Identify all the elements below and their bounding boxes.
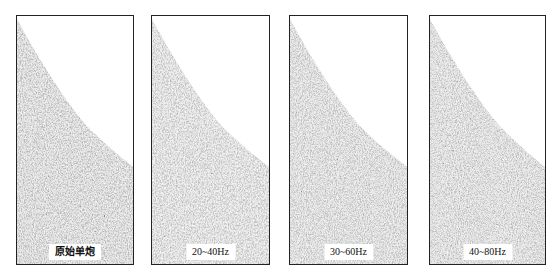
panel-label: 40~80Hz bbox=[463, 244, 512, 260]
panel-label: 20~40Hz bbox=[186, 244, 235, 260]
seismic-gather-image bbox=[152, 16, 269, 264]
panel-label: 原始单炮 bbox=[49, 244, 101, 260]
panel-20-40hz: 20~40Hz bbox=[151, 15, 270, 265]
panel-original-shot: 原始单炮 bbox=[16, 15, 134, 265]
panel-40-80hz: 40~80Hz bbox=[429, 15, 546, 265]
panel-label: 30~60Hz bbox=[324, 244, 373, 260]
seismic-gather-image bbox=[17, 16, 133, 264]
panel-30-60hz: 30~60Hz bbox=[289, 15, 408, 265]
seismic-gather-image bbox=[430, 16, 545, 264]
seismic-gather-image bbox=[290, 16, 407, 264]
